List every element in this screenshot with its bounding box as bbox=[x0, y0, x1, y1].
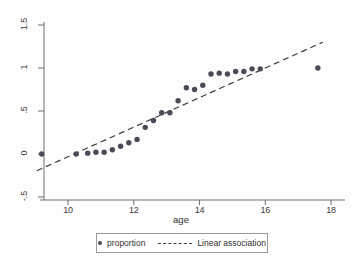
legend-item-linear-association: Linear association bbox=[158, 238, 266, 248]
data-point bbox=[159, 110, 164, 115]
circle-marker-icon bbox=[98, 241, 102, 245]
y-axis-tick-label: 1 bbox=[19, 57, 29, 77]
data-point bbox=[151, 118, 156, 123]
x-axis-title: age bbox=[0, 214, 362, 225]
legend-label-proportion: proportion bbox=[107, 238, 145, 248]
proportion-scatter-points bbox=[39, 65, 321, 156]
legend-label-linear-association: Linear association bbox=[197, 238, 266, 248]
linear-association-line bbox=[37, 42, 323, 171]
data-point bbox=[74, 151, 79, 156]
data-point bbox=[258, 66, 263, 71]
chart-legend: proportion Linear association bbox=[96, 233, 268, 253]
data-point bbox=[315, 65, 320, 70]
y-axis-tick-label: 1.5 bbox=[19, 14, 29, 34]
data-point bbox=[126, 140, 131, 145]
legend-item-proportion: proportion bbox=[98, 238, 145, 248]
chart-figure: -.50.511.51012141618 age proportion Line… bbox=[0, 0, 362, 271]
data-point bbox=[110, 147, 115, 152]
data-point bbox=[134, 137, 139, 142]
trend-line bbox=[37, 42, 323, 171]
y-axis-ticks bbox=[38, 25, 44, 197]
data-point bbox=[184, 85, 189, 90]
data-point bbox=[249, 66, 254, 71]
data-point bbox=[217, 70, 222, 75]
dashed-line-marker-icon bbox=[158, 243, 192, 244]
data-point bbox=[175, 98, 180, 103]
data-point bbox=[118, 144, 123, 149]
data-point bbox=[241, 69, 246, 74]
data-point bbox=[39, 151, 44, 156]
data-point bbox=[225, 71, 230, 76]
data-point bbox=[208, 71, 213, 76]
plot-canvas bbox=[0, 0, 362, 271]
data-point bbox=[85, 150, 90, 155]
data-point bbox=[192, 87, 197, 92]
y-axis-tick-label: .5 bbox=[19, 100, 29, 120]
data-point bbox=[167, 110, 172, 115]
y-axis-tick-label: 0 bbox=[19, 143, 29, 163]
y-axis-tick-label: -.5 bbox=[19, 186, 29, 206]
data-point bbox=[143, 125, 148, 130]
data-point bbox=[93, 150, 98, 155]
axis-lines bbox=[40, 22, 345, 200]
data-point bbox=[233, 69, 238, 74]
data-point bbox=[101, 150, 106, 155]
data-point bbox=[200, 83, 205, 88]
